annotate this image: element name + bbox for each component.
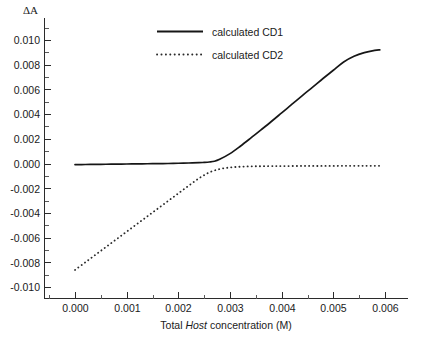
y-tick-label: -0.008 — [10, 257, 40, 269]
line-chart: -0.010-0.008-0.006-0.004-0.0020.0000.002… — [0, 0, 427, 347]
x-tick-label: 0.004 — [269, 302, 295, 314]
y-tick-label: -0.010 — [10, 281, 40, 293]
y-tick-label: 0.010 — [14, 34, 40, 46]
y-tick-label: 0.004 — [14, 108, 40, 120]
y-tick-label: -0.006 — [10, 232, 40, 244]
y-tick-label: 0.002 — [14, 133, 40, 145]
legend-label-calculated-cd1: calculated CD1 — [212, 26, 283, 38]
legend-label-calculated-cd2: calculated CD2 — [212, 49, 283, 61]
x-tick-label: 0.001 — [114, 302, 140, 314]
y-tick-label: 0.008 — [14, 59, 40, 71]
y-tick-label: -0.004 — [10, 207, 40, 219]
x-axis-title-italic: Host — [185, 319, 208, 331]
y-tick-label: 0.006 — [14, 84, 40, 96]
x-tick-label: 0.005 — [320, 302, 346, 314]
y-axis-title: ΔA — [23, 4, 38, 16]
x-tick-label: 0.006 — [372, 302, 398, 314]
x-axis-title-suffix: concentration (M) — [207, 319, 292, 331]
x-tick-label: 0.000 — [62, 302, 88, 314]
y-tick-label: -0.002 — [10, 183, 40, 195]
chart-figure: -0.010-0.008-0.006-0.004-0.0020.0000.002… — [0, 0, 427, 347]
x-tick-label: 0.002 — [165, 302, 191, 314]
y-tick-label: 0.000 — [14, 158, 40, 170]
x-tick-label: 0.003 — [217, 302, 243, 314]
x-axis-title-prefix: Total — [160, 319, 185, 331]
x-axis-title: Total Host concentration (M) — [160, 319, 291, 331]
